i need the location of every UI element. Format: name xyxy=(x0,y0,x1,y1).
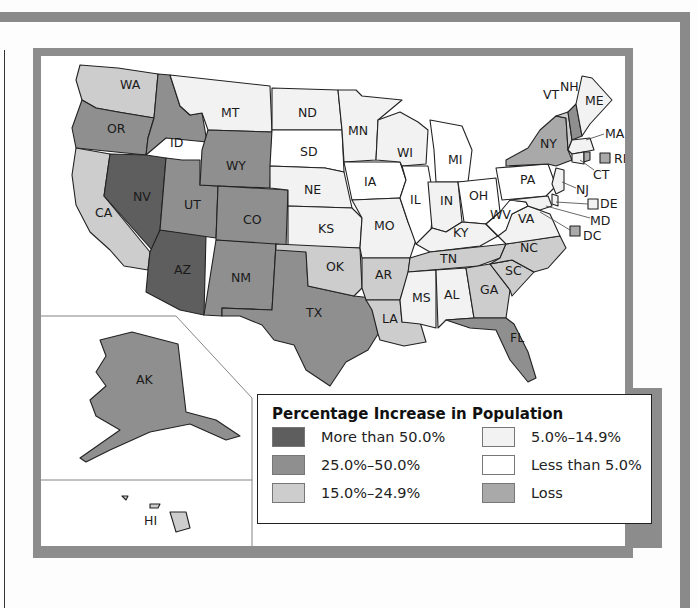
label-sc: SC xyxy=(505,263,522,278)
legend-item-under-5: Less than 5.0% xyxy=(482,455,652,475)
legend-item-5-14: 5.0%–14.9% xyxy=(482,427,652,447)
label-oh: OH xyxy=(469,188,488,203)
callout-box-ri xyxy=(600,153,610,163)
label-me: ME xyxy=(585,93,604,108)
label-ar: AR xyxy=(375,267,393,282)
state-fl xyxy=(446,318,536,382)
legend-label: Less than 5.0% xyxy=(531,457,642,473)
label-or: OR xyxy=(107,121,126,136)
label-ne: NE xyxy=(304,182,321,197)
legend-item-loss: Loss xyxy=(482,483,652,503)
page-top-border xyxy=(0,12,682,22)
label-va: VA xyxy=(518,211,535,226)
legend-swatch xyxy=(482,483,515,503)
legend-swatch xyxy=(272,427,305,447)
label-mo: MO xyxy=(374,218,395,233)
label-in: IN xyxy=(440,193,453,208)
label-ok: OK xyxy=(326,259,345,274)
label-dc: DC xyxy=(583,228,602,243)
label-tn: TN xyxy=(439,251,457,266)
callout-box-dc xyxy=(570,226,580,236)
state-nj xyxy=(552,168,564,194)
label-wy: WY xyxy=(226,158,246,173)
label-nv: NV xyxy=(133,189,151,204)
legend-title: Percentage Increase in Population xyxy=(272,405,637,423)
legend-label: 5.0%–14.9% xyxy=(531,429,621,445)
label-nc: NC xyxy=(520,240,538,255)
legend-label: 25.0%–50.0% xyxy=(321,457,420,473)
leader-md xyxy=(546,206,590,218)
label-il: IL xyxy=(410,192,421,207)
label-co: CO xyxy=(243,212,262,227)
label-ri: RI xyxy=(614,151,625,166)
callout-box-de xyxy=(588,199,598,209)
label-nd: ND xyxy=(298,105,317,120)
label-mn: MN xyxy=(348,123,368,138)
legend-label: Loss xyxy=(531,485,563,501)
label-mt: MT xyxy=(221,105,240,120)
label-wv: WV xyxy=(490,207,511,222)
state-ak xyxy=(80,332,240,462)
map-legend: Percentage Increase in Population More t… xyxy=(257,394,652,524)
legend-label: More than 50.0% xyxy=(321,429,445,445)
label-ga: GA xyxy=(480,282,499,297)
legend-grid: More than 50.0% 5.0%–14.9% 25.0%–50.0% L… xyxy=(272,427,637,503)
page-left-rule xyxy=(4,50,5,608)
label-ma: MA xyxy=(605,126,625,141)
label-ms: MS xyxy=(412,290,431,305)
label-pa: PA xyxy=(520,172,536,187)
label-ky: KY xyxy=(453,225,469,240)
leader-ma xyxy=(586,134,604,140)
label-id: ID xyxy=(170,135,183,150)
label-de: DE xyxy=(600,196,618,211)
state-ri xyxy=(584,152,590,162)
legend-label: 15.0%–24.9% xyxy=(321,485,420,501)
legend-swatch xyxy=(272,483,305,503)
label-ca: CA xyxy=(95,205,113,220)
label-ak: AK xyxy=(136,372,154,387)
label-az: AZ xyxy=(174,262,191,277)
legend-swatch xyxy=(482,455,515,475)
label-nh: NH xyxy=(560,79,579,94)
label-la: LA xyxy=(382,311,398,326)
legend-item-over-50: More than 50.0% xyxy=(272,427,482,447)
label-wa: WA xyxy=(120,77,141,92)
label-hi: HI xyxy=(144,513,157,528)
label-nm: NM xyxy=(231,270,251,285)
label-tx: TX xyxy=(305,305,323,320)
leader-de xyxy=(556,202,588,204)
state-ny xyxy=(506,116,572,166)
label-md: MD xyxy=(590,213,610,228)
inset-divider-diagonal xyxy=(176,316,252,398)
label-wi: WI xyxy=(397,145,413,160)
page-right-border xyxy=(680,12,690,608)
legend-swatch xyxy=(272,455,305,475)
legend-item-25-50: 25.0%–50.0% xyxy=(272,455,482,475)
label-ia: IA xyxy=(364,174,377,189)
label-mi: MI xyxy=(448,152,462,167)
label-fl: FL xyxy=(510,330,524,345)
label-ct: CT xyxy=(593,167,610,182)
state-ct xyxy=(572,152,584,164)
label-nj: NJ xyxy=(576,182,589,197)
label-vt: VT xyxy=(543,87,560,102)
label-sd: SD xyxy=(300,144,318,159)
label-ks: KS xyxy=(318,221,334,236)
label-ny: NY xyxy=(540,136,557,151)
state-mi xyxy=(430,120,472,182)
label-ut: UT xyxy=(184,197,201,212)
legend-swatch xyxy=(482,427,515,447)
label-al: AL xyxy=(444,287,460,302)
state-de xyxy=(552,194,558,206)
legend-item-15-24: 15.0%–24.9% xyxy=(272,483,482,503)
